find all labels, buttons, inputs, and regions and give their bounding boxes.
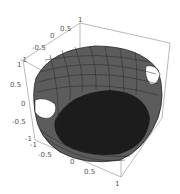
svg-text:1: 1 (115, 180, 119, 188)
svg-text:1: 1 (78, 16, 82, 24)
svg-text:-0.5: -0.5 (12, 118, 26, 126)
surface-plot: -1 -0.5 0 0.5 1 1 0.5 0 -0.5 -1 -1 -0.5 … (0, 0, 180, 194)
surface (34, 46, 162, 162)
svg-text:0.5: 0.5 (10, 81, 21, 89)
left-axis-ticks: 1 0.5 0 -0.5 -1 (10, 61, 32, 143)
svg-text:0.5: 0.5 (60, 25, 71, 33)
svg-text:0.5: 0.5 (84, 168, 95, 176)
svg-text:0: 0 (21, 100, 25, 108)
svg-text:0: 0 (50, 32, 54, 40)
svg-text:1: 1 (17, 61, 21, 69)
svg-text:-0.5: -0.5 (32, 44, 46, 52)
svg-text:-0.5: -0.5 (38, 151, 52, 159)
svg-text:0: 0 (70, 158, 74, 166)
svg-text:-1: -1 (30, 141, 37, 149)
